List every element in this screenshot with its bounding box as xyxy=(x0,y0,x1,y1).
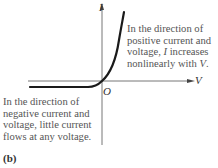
negative-line-2: negative current and xyxy=(3,108,92,120)
text: increases xyxy=(167,46,208,57)
x-axis-arrow-icon xyxy=(187,79,195,83)
positive-line-4: nonlinearly with V. xyxy=(127,58,211,70)
origin-label: O xyxy=(103,86,111,97)
positive-annotation: In the direction of positive current and… xyxy=(127,23,211,69)
text: . xyxy=(206,58,209,69)
positive-line-3: voltage, I increases xyxy=(127,46,211,58)
text: voltage, xyxy=(127,46,163,57)
panel-label: (b) xyxy=(3,152,16,164)
x-axis-label: V xyxy=(195,75,202,86)
positive-line-2: positive current and xyxy=(127,35,211,47)
text: nonlinearly with xyxy=(127,58,199,69)
negative-annotation: In the direction of negative current and… xyxy=(3,96,92,142)
y-axis-label: I xyxy=(99,2,103,13)
negative-line-4: flows at any voltage. xyxy=(3,131,92,143)
negative-line-1: In the direction of xyxy=(3,96,92,108)
positive-line-1: In the direction of xyxy=(127,23,211,35)
iv-curve xyxy=(30,12,124,87)
negative-line-3: voltage, little current xyxy=(3,119,92,131)
